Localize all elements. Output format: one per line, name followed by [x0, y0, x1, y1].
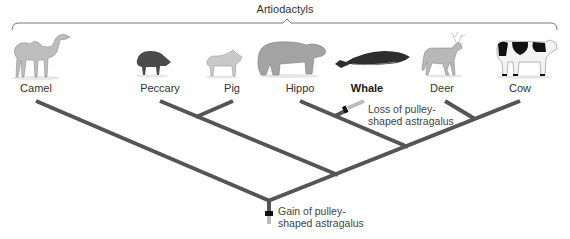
loss-annotation-line2: shaped astragalus — [368, 115, 454, 127]
loss-annotation: Loss of pulley- shaped astragalus — [368, 103, 454, 127]
gain-annotation-line1: Gain of pulley- — [278, 205, 364, 217]
gain-annotation-line2: shaped astragalus — [278, 217, 364, 229]
branch-camel — [36, 101, 270, 201]
branch-whale-lost-trait — [348, 101, 364, 108]
phylogenetic-tree — [0, 0, 570, 239]
branch-pig — [196, 101, 233, 117]
gain-marker — [265, 211, 273, 216]
gain-annotation: Gain of pulley- shaped astragalus — [278, 205, 364, 229]
loss-annotation-line1: Loss of pulley- — [368, 103, 454, 115]
